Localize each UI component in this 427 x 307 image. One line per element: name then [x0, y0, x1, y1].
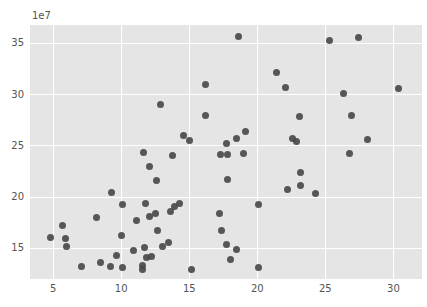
scatter-point — [130, 247, 137, 254]
scatter-point — [140, 149, 147, 156]
y-tick-label: 25 — [0, 140, 24, 152]
scatter-point — [153, 177, 160, 184]
y-gridline — [30, 197, 422, 198]
scatter-point — [62, 235, 69, 242]
scatter-point — [133, 217, 140, 224]
scatter-point — [47, 234, 54, 241]
scatter-point — [364, 136, 371, 143]
x-gridline — [121, 25, 122, 279]
scatter-point — [142, 200, 149, 207]
scatter-point — [240, 150, 247, 157]
scatter-point — [235, 33, 242, 40]
scatter-point — [113, 252, 120, 259]
scatter-point — [296, 113, 303, 120]
scatter-point — [255, 264, 262, 271]
y-gridline — [30, 248, 422, 249]
scatter-point — [224, 176, 231, 183]
x-gridline — [325, 25, 326, 279]
scatter-point — [297, 182, 304, 189]
scatter-point — [146, 163, 153, 170]
scatter-point — [293, 138, 300, 145]
scatter-point — [255, 201, 262, 208]
scatter-point — [346, 150, 353, 157]
scatter-point — [395, 85, 402, 92]
scatter-point — [217, 151, 224, 158]
scatter-point — [348, 112, 355, 119]
scatter-point — [242, 128, 249, 135]
scatter-point — [146, 213, 153, 220]
scatter-point — [202, 81, 209, 88]
x-gridline — [393, 25, 394, 279]
scatter-point — [157, 101, 164, 108]
y-tick-label: 15 — [0, 242, 24, 254]
y-gridline — [30, 43, 422, 44]
y-tick-label: 20 — [0, 191, 24, 203]
scatter-point — [78, 263, 85, 270]
plot-area — [30, 25, 422, 279]
scatter-point — [355, 34, 362, 41]
scatter-point — [169, 152, 176, 159]
scatter-point — [59, 222, 66, 229]
scatter-point — [188, 266, 195, 273]
scatter-point — [202, 112, 209, 119]
x-gridline — [53, 25, 54, 279]
x-tick-label: 5 — [50, 283, 56, 295]
scatter-point — [148, 253, 155, 260]
x-gridline — [257, 25, 258, 279]
y-tick-label: 35 — [0, 37, 24, 49]
scatter-point — [216, 210, 223, 217]
scatter-point — [273, 69, 280, 76]
x-tick-label: 10 — [115, 283, 128, 295]
scatter-point — [227, 256, 234, 263]
scatter-point — [107, 263, 114, 270]
x-gridline — [189, 25, 190, 279]
scatter-point — [154, 227, 161, 234]
scatter-figure: 1e7 510152025301520253035 — [0, 0, 427, 307]
y-gridline — [30, 94, 422, 95]
x-tick-label: 30 — [387, 283, 400, 295]
scatter-point — [223, 140, 230, 147]
scatter-point — [233, 246, 240, 253]
scatter-point — [119, 264, 126, 271]
scatter-point — [326, 37, 333, 44]
scatter-point — [176, 200, 183, 207]
scatter-point — [284, 186, 291, 193]
x-tick-label: 15 — [183, 283, 196, 295]
scatter-point — [297, 169, 304, 176]
scatter-point — [139, 266, 146, 273]
scatter-point — [108, 189, 115, 196]
scatter-point — [282, 84, 289, 91]
x-tick-label: 20 — [251, 283, 264, 295]
scatter-point — [141, 244, 148, 251]
scatter-point — [218, 227, 225, 234]
scatter-point — [186, 137, 193, 144]
scatter-point — [233, 135, 240, 142]
scatter-point — [63, 243, 70, 250]
scatter-point — [167, 208, 174, 215]
scatter-point — [224, 151, 231, 158]
scatter-point — [93, 214, 100, 221]
scatter-point — [97, 259, 104, 266]
scatter-point — [119, 201, 126, 208]
x-tick-label: 25 — [319, 283, 332, 295]
scatter-point — [223, 241, 230, 248]
scatter-point — [165, 239, 172, 246]
scatter-point — [340, 90, 347, 97]
scatter-point — [118, 232, 125, 239]
y-axis-offset-label: 1e7 — [32, 10, 51, 22]
y-tick-label: 30 — [0, 89, 24, 101]
